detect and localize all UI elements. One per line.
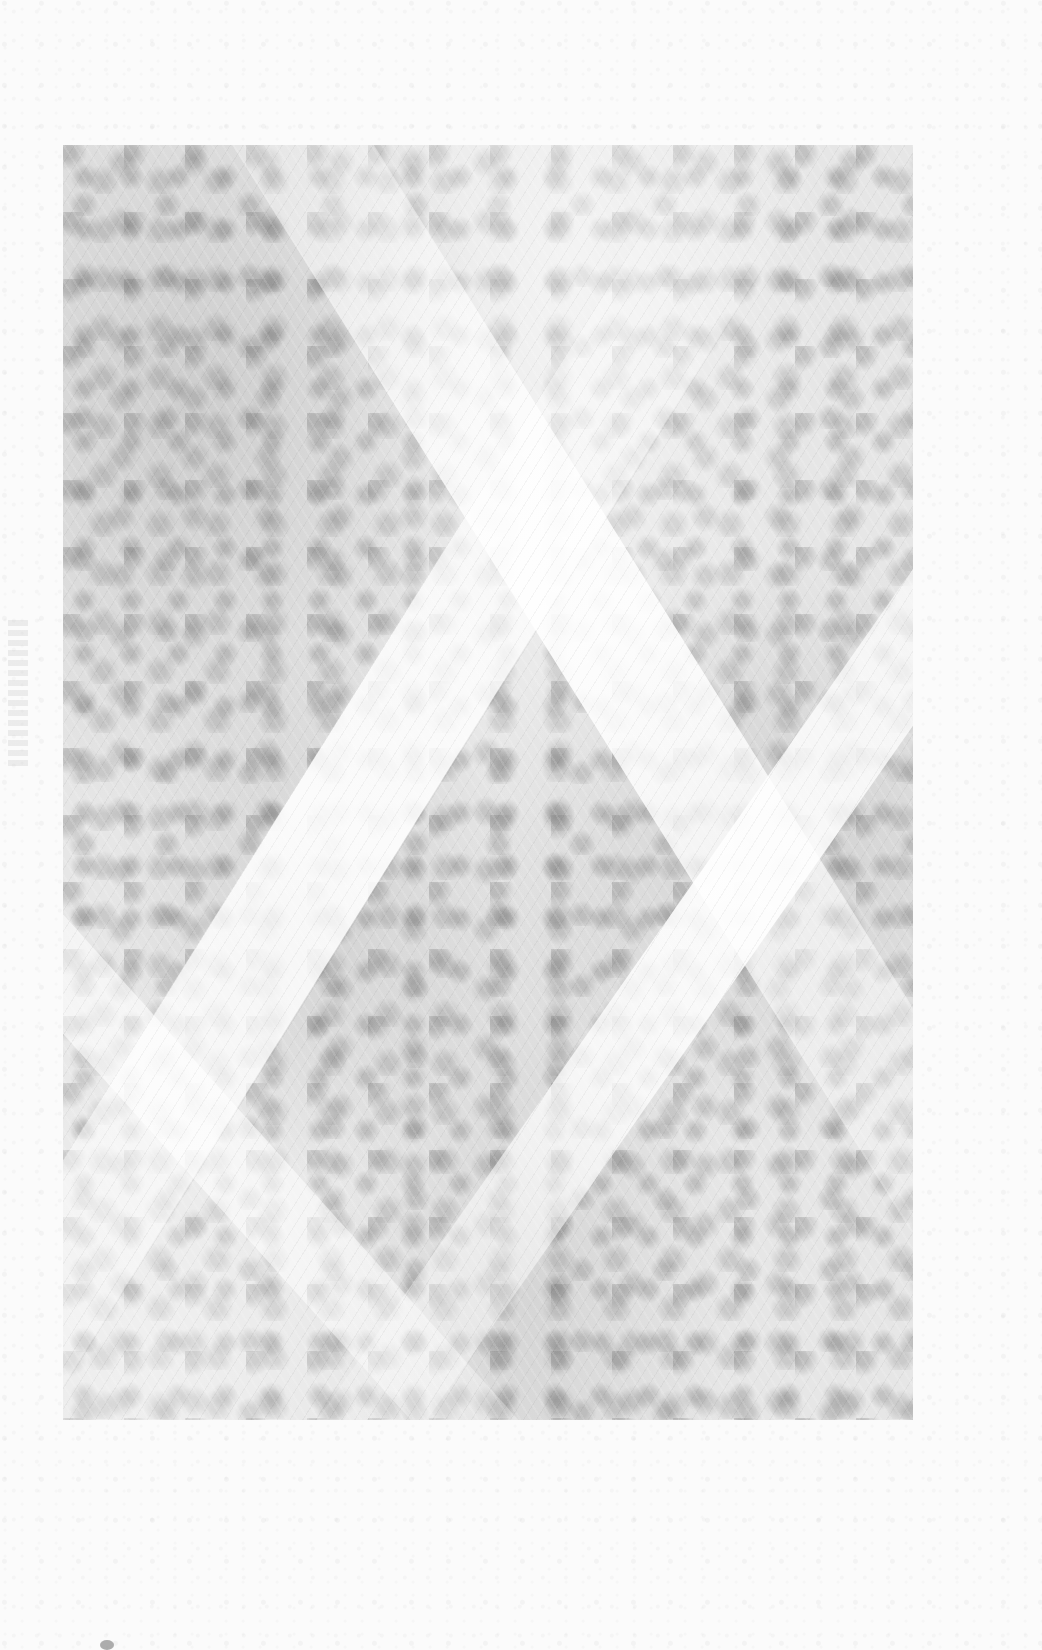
figure-streaks (63, 145, 913, 1420)
scan-smudge (100, 1640, 114, 1650)
margin-annotation (8, 620, 28, 770)
micrograph-figure (63, 145, 913, 1420)
